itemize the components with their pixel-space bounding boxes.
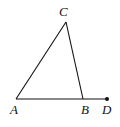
point-D-dot: [105, 97, 109, 101]
segment-CB: [66, 22, 83, 99]
segment-AC: [16, 22, 66, 99]
label-A: A: [9, 102, 18, 117]
geometry-diagram: C A B D: [0, 0, 120, 127]
label-C: C: [59, 4, 68, 19]
label-B: B: [81, 102, 89, 117]
label-D: D: [101, 102, 112, 117]
